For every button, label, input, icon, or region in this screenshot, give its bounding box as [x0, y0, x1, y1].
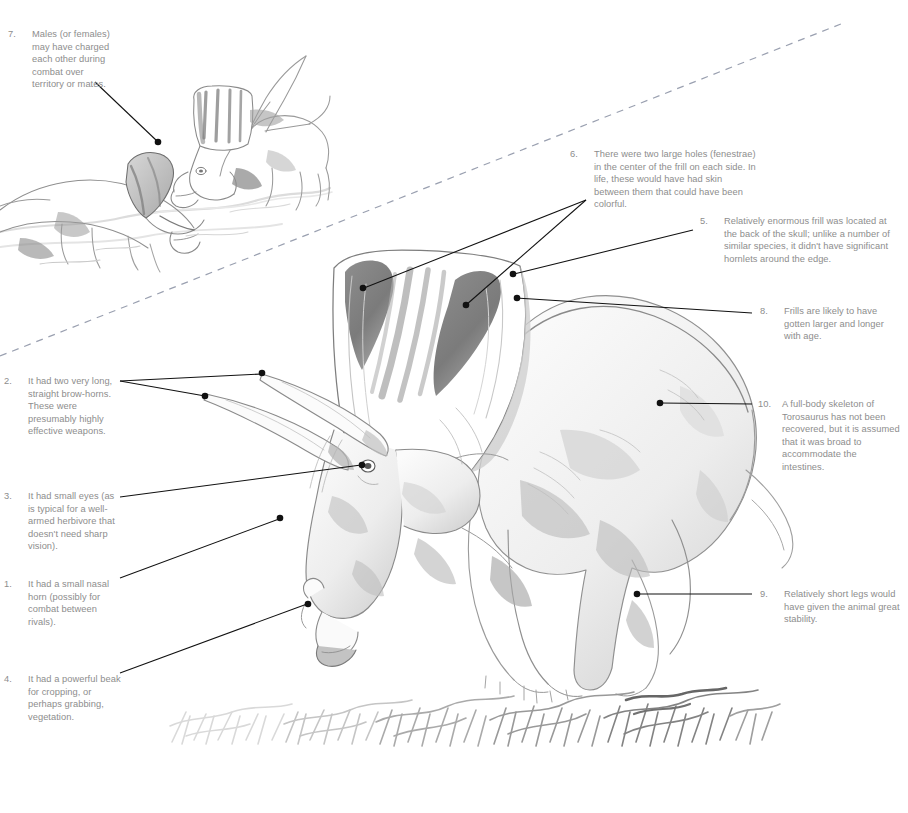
callout-8-text: Frills are likely to have gotten larger …: [784, 305, 900, 343]
callout-5: 5. Relatively enormous frill was located…: [700, 215, 900, 265]
diagram-canvas: 7. Males (or females) may have charged e…: [0, 0, 908, 813]
grass-foreground: [170, 688, 780, 746]
callout-8-number: 8.: [760, 305, 780, 318]
callout-2-text: It had two very long, straight brow-horn…: [28, 375, 120, 438]
callout-5-text: Relatively enormous frill was located at…: [724, 215, 900, 265]
main-torosaurus-sketch: [204, 250, 793, 703]
callout-10-text: A full-body skeleton of Torosaurus has n…: [782, 398, 900, 474]
callout-1-text: It had a small nasal horn (possibly for …: [28, 578, 122, 628]
callout-1: 1. It had a small nasal horn (possibly f…: [4, 578, 122, 628]
callout-4-text: It had a powerful beak for cropping, or …: [28, 673, 124, 723]
callout-6-number: 6.: [570, 148, 590, 161]
callout-10: 10. A full-body skeleton of Torosaurus h…: [758, 398, 900, 474]
callout-1-number: 1.: [4, 578, 24, 591]
callout-6-text: There were two large holes (fenestrae) i…: [594, 148, 760, 211]
callout-4-number: 4.: [4, 673, 24, 686]
callout-3: 3. It had small eyes (as is typical for …: [4, 490, 122, 553]
callout-9-text: Relatively short legs would have given t…: [784, 588, 900, 626]
callout-7-number: 7.: [8, 28, 28, 41]
callout-9: 9. Relatively short legs would have give…: [760, 588, 900, 626]
callout-8: 8. Frills are likely to have gotten larg…: [760, 305, 900, 343]
callout-3-number: 3.: [4, 490, 24, 503]
callout-7: 7. Males (or females) may have charged e…: [8, 28, 118, 91]
callout-3-text: It had small eyes (as is typical for a w…: [28, 490, 122, 553]
callout-4: 4. It had a powerful beak for cropping, …: [4, 673, 124, 723]
callout-9-number: 9.: [760, 588, 780, 601]
callout-7-text: Males (or females) may have charged each…: [32, 28, 118, 91]
callout-2-number: 2.: [4, 375, 24, 388]
callout-10-number: 10.: [758, 398, 778, 411]
callout-2: 2. It had two very long, straight brow-h…: [4, 375, 120, 438]
callout-6: 6. There were two large holes (fenestrae…: [570, 148, 760, 211]
callout-5-number: 5.: [700, 215, 720, 228]
